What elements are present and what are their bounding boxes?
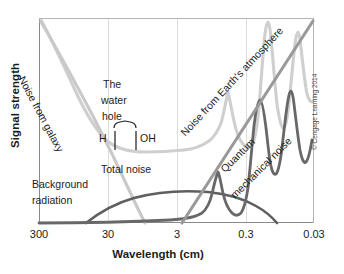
x-tick-label-30: 30 <box>102 228 114 240</box>
x-tick-label-0.3: 0.3 <box>238 228 253 240</box>
x-tick-label-3: 3 <box>174 228 180 240</box>
hydrogen-line-label: H <box>99 132 107 144</box>
hydroxyl-line-label: OH <box>140 132 156 144</box>
total-noise-label: Total noise <box>101 163 151 175</box>
background-radiation-label-line2: radiation <box>32 194 72 206</box>
x-axis-title: Wavelength (cm) <box>0 248 316 260</box>
x-tick-label-300: 300 <box>30 228 48 240</box>
y-axis-title: Signal strength <box>9 64 21 148</box>
copyright-credit: © Cengage Learning 2014 <box>311 54 318 150</box>
background-radiation-label-line1: Background <box>32 178 88 190</box>
x-tick-label-0.03: 0.03 <box>303 228 324 240</box>
water-hole-label-line2: water <box>101 94 127 106</box>
water-hole-label-line1: The <box>103 78 121 90</box>
figure-container: Signal strength Wavelength (cm) 300 30 3… <box>0 0 344 274</box>
water-hole-label-line3: hole <box>102 110 122 122</box>
